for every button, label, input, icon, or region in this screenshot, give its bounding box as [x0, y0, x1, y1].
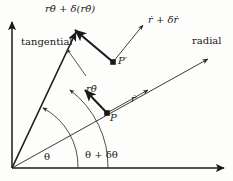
- vector-r-theta-dot-delta-at-pprime: [75, 30, 113, 62]
- polar-velocity-diagram: rθ̇ + δ(rθ̇) ṙ + δṙ tangential radial P′…: [0, 0, 233, 181]
- label-radial-velocity-at-pprime: ṙ + δṙ: [148, 15, 178, 25]
- label-angle-theta: θ: [44, 152, 50, 162]
- label-radial-axis: radial: [192, 36, 222, 46]
- point-marker-p: [104, 110, 110, 116]
- leader-tangential-label: [67, 49, 86, 76]
- label-point-pprime: P′: [118, 56, 127, 66]
- label-tangential-axis: tangential: [21, 37, 73, 47]
- vector-r-dot-at-p: [107, 90, 148, 113]
- tangential-ray: [12, 32, 76, 168]
- label-tangential-velocity-at-p: rθ̇: [86, 84, 97, 94]
- point-marker-pprime: [110, 59, 116, 65]
- label-point-p: P: [110, 113, 117, 123]
- label-radial-velocity-at-p: ṙ: [131, 94, 136, 104]
- label-tangential-velocity-at-pprime: rθ̇ + δ(rθ̇): [45, 4, 95, 14]
- label-angle-theta-delta: θ + δθ: [85, 150, 118, 160]
